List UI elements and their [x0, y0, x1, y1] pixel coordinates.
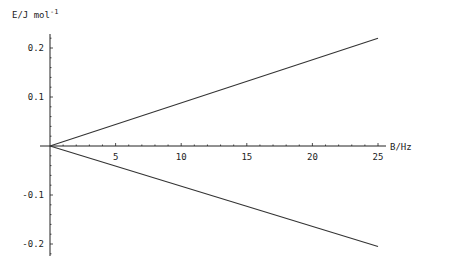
- x-axis-label: B/Hz: [390, 142, 412, 152]
- y-axis-label: E/J mol-1: [12, 8, 58, 20]
- series-line-lower: [50, 146, 378, 246]
- y-tick-label: 0.1: [28, 92, 44, 102]
- x-tick-label: 25: [373, 152, 384, 162]
- x-tick-label: 20: [307, 152, 318, 162]
- data-series: [50, 38, 378, 246]
- axes: 5101520250.20.1-0.1-0.2: [22, 34, 386, 256]
- line-chart: 5101520250.20.1-0.1-0.2 E/J mol-1 B/Hz: [0, 0, 450, 266]
- y-tick-label: -0.2: [22, 239, 44, 249]
- y-tick-label: 0.2: [28, 43, 44, 53]
- x-tick-label: 10: [176, 152, 187, 162]
- y-axis-label-superscript: -1: [50, 8, 58, 16]
- y-tick-label: -0.1: [22, 190, 44, 200]
- series-line-upper: [50, 38, 378, 146]
- x-tick-label: 15: [241, 152, 252, 162]
- x-tick-label: 5: [113, 152, 118, 162]
